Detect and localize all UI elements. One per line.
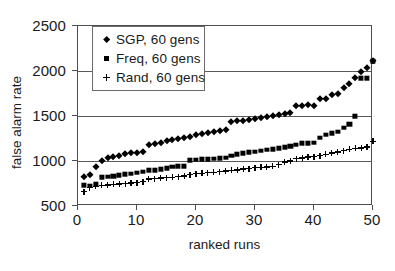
data-point: [187, 172, 193, 178]
data-point: [175, 174, 181, 180]
x-tick-label: 50: [352, 211, 392, 228]
data-point: [199, 170, 205, 176]
data-point: [223, 168, 229, 174]
data-point: [275, 111, 283, 119]
data-point: [298, 102, 306, 110]
data-point: [239, 117, 247, 125]
legend-item-label: Freq, 60 gens: [116, 51, 201, 66]
data-point: [216, 127, 224, 135]
data-point: [292, 102, 300, 110]
data-point: [115, 152, 123, 160]
data-point: [105, 182, 111, 188]
data-point: [287, 109, 295, 117]
data-point: [351, 74, 359, 82]
data-point: [145, 141, 153, 149]
x-tick-label: 40: [293, 211, 333, 228]
data-point: [334, 91, 342, 99]
data-point: [127, 150, 135, 158]
data-point: [257, 114, 265, 122]
data-point: [241, 151, 246, 156]
data-point: [176, 164, 181, 169]
data-point: [170, 165, 175, 170]
data-point: [335, 129, 340, 134]
data-point: [188, 158, 193, 163]
data-point: [352, 145, 358, 151]
legend-item-label: Rand, 60 gens: [116, 70, 205, 85]
data-point: [211, 156, 216, 161]
data-point: [86, 171, 94, 179]
data-point: [323, 151, 329, 157]
x-tick-mark: [77, 205, 78, 210]
data-point: [347, 122, 352, 127]
data-point: [110, 153, 118, 161]
data-point: [282, 159, 288, 165]
legend-item-rand: Rand, 60 gens: [93, 68, 204, 87]
data-point: [235, 152, 240, 157]
data-point: [311, 154, 317, 160]
legend-item-label: SGP, 60 gens: [116, 32, 200, 47]
data-point: [87, 185, 93, 191]
data-point: [111, 174, 116, 179]
data-point: [346, 146, 352, 152]
data-point: [193, 171, 199, 177]
data-point: [317, 153, 323, 159]
data-point: [316, 96, 324, 104]
data-point: [311, 140, 316, 145]
data-point: [199, 157, 204, 162]
data-point: [358, 145, 364, 151]
data-point: [193, 157, 198, 162]
data-point: [93, 182, 98, 187]
data-point: [335, 149, 341, 155]
data-point: [122, 181, 128, 187]
data-point: [369, 57, 377, 65]
data-point: [357, 68, 365, 76]
data-point: [146, 176, 152, 182]
data-point: [164, 175, 170, 181]
data-point: [223, 156, 228, 161]
data-point: [258, 148, 263, 153]
data-point: [152, 176, 158, 182]
data-point: [123, 172, 128, 177]
data-point: [93, 183, 99, 189]
data-point: [129, 171, 134, 176]
data-point: [146, 168, 151, 173]
data-point: [247, 150, 252, 155]
data-point: [128, 180, 134, 186]
data-point: [204, 129, 212, 137]
data-point: [251, 115, 259, 123]
data-point: [186, 133, 194, 141]
data-point: [252, 165, 258, 171]
data-point: [341, 148, 347, 154]
chart-legend: SGP, 60 gens Freq, 60 gens Rand, 60 gens: [92, 26, 205, 91]
y-tick-label: 2500: [8, 17, 66, 34]
x-tick-label: 30: [234, 211, 274, 228]
y-tick-label: 2000: [8, 62, 66, 79]
data-point: [192, 132, 200, 140]
data-point: [258, 164, 264, 170]
data-point: [363, 64, 371, 72]
x-tick-mark: [195, 205, 196, 210]
data-point: [328, 91, 336, 99]
data-point: [158, 167, 163, 172]
data-point: [205, 157, 210, 162]
data-point: [104, 154, 112, 162]
data-point: [264, 147, 269, 152]
data-point: [228, 167, 234, 173]
data-point: [133, 149, 141, 157]
data-point: [322, 95, 330, 103]
data-point: [270, 163, 276, 169]
data-point: [370, 59, 375, 64]
data-point: [105, 174, 110, 179]
data-point: [341, 125, 346, 130]
legend-item-freq: Freq, 60 gens: [93, 49, 204, 68]
y-tick-label: 1500: [8, 107, 66, 124]
data-point: [323, 133, 328, 138]
data-point: [270, 147, 275, 152]
data-point: [252, 149, 257, 154]
data-point: [276, 162, 282, 168]
data-point: [234, 167, 240, 173]
diamond-marker-icon: [101, 34, 112, 45]
data-point: [304, 101, 312, 109]
data-point: [134, 170, 139, 175]
chart-figure: false alarm rate 5001000150020002500 010…: [0, 0, 395, 271]
